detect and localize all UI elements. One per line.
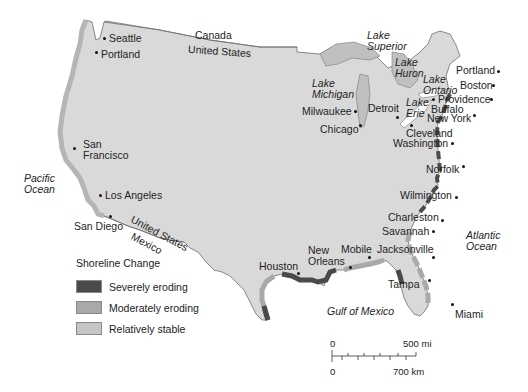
label-lake-huron: LakeHuron <box>395 57 424 79</box>
city-portland-me: Portland <box>456 65 495 76</box>
atlantic-line2: Ocean <box>466 240 497 252</box>
swatch-severely-eroding <box>76 280 102 293</box>
label-canada: Canada <box>195 30 232 41</box>
scale-bottom-left: 0 <box>330 366 335 377</box>
city-dot-tampa <box>428 279 431 282</box>
city-portland-or: Portland <box>101 49 140 60</box>
city-charleston: Charleston <box>388 212 439 223</box>
swatch-moderately-eroding <box>76 301 102 314</box>
city-dot-norfolk <box>462 165 465 168</box>
legend-title: Shoreline Change <box>76 257 199 269</box>
city-mobile: Mobile <box>341 244 372 255</box>
city-dot-milwaukee <box>354 110 357 113</box>
pacific-line2: Ocean <box>24 183 55 195</box>
city-dot-savannah <box>432 230 435 233</box>
legend-label: Severely eroding <box>109 281 188 293</box>
city-dot-los-angeles <box>99 194 102 197</box>
sf-line2: Francisco <box>83 149 129 161</box>
swatch-relatively-stable <box>76 322 102 335</box>
city-dot-charleston <box>441 219 444 222</box>
label-lake-erie: LakeErie <box>406 97 429 119</box>
city-dot-detroit <box>396 116 399 119</box>
city-dot-new-orleans <box>349 266 352 269</box>
city-dot-seattle <box>103 37 106 40</box>
legend-item-relatively-stable: Relatively stable <box>76 318 199 339</box>
city-dot-jacksonville <box>432 256 435 259</box>
city-detroit: Detroit <box>368 103 399 114</box>
label-pacific-ocean: PacificOcean <box>24 173 55 195</box>
city-los-angeles: Los Angeles <box>105 190 162 201</box>
city-dot-san-diego <box>109 215 112 218</box>
michigan-line2: Michigan <box>312 88 354 100</box>
city-savannah: Savannah <box>382 226 429 237</box>
city-dot-washington <box>451 142 454 145</box>
legend-label: Relatively stable <box>109 323 185 335</box>
city-jacksonville: Jacksonville <box>377 244 434 255</box>
city-milwaukee: Milwaukee <box>302 106 352 117</box>
city-san-francisco: SanFrancisco <box>83 139 129 161</box>
city-dot-portland-or <box>95 51 98 54</box>
label-lake-michigan: LakeMichigan <box>312 78 354 100</box>
city-dot-houston <box>297 272 300 275</box>
huron-line2: Huron <box>395 67 424 79</box>
scale-top-right: 500 mi <box>403 338 432 349</box>
legend-label: Moderately eroding <box>109 302 199 314</box>
legend-item-severely-eroding: Severely eroding <box>76 276 199 297</box>
city-dot-buffalo <box>432 98 435 101</box>
city-houston: Houston <box>259 261 298 272</box>
city-san-diego: San Diego <box>74 221 123 232</box>
city-miami: Miami <box>455 309 483 320</box>
label-atlantic-ocean: AtlanticOcean <box>466 230 500 252</box>
city-tampa: Tampa <box>388 279 420 290</box>
city-new-orleans: NewOrleans <box>308 245 345 267</box>
city-buffalo: Buffalo <box>431 104 464 115</box>
legend: Shoreline Change Severely eroding Modera… <box>76 257 199 339</box>
city-seattle: Seattle <box>109 33 142 44</box>
label-lake-superior: LakeSuperior <box>367 30 407 52</box>
city-boston: Boston <box>460 80 493 91</box>
city-washington: Washington <box>393 138 448 149</box>
label-gulf-of-mexico: Gulf of Mexico <box>327 306 394 317</box>
city-dot-portland-me <box>497 70 500 73</box>
scale-bottom-right: 700 km <box>393 366 424 377</box>
city-wilmington: Wilmington <box>400 190 452 201</box>
city-chicago: Chicago <box>320 124 359 135</box>
superior-line2: Superior <box>367 40 407 52</box>
scale-bar: 0 500 mi 0 700 km <box>330 338 420 380</box>
city-dot-san-francisco <box>73 147 76 150</box>
city-dot-chicago <box>359 124 362 127</box>
scale-top-left: 0 <box>330 338 335 349</box>
city-dot-new-york <box>473 114 476 117</box>
erie-line2: Erie <box>406 107 425 119</box>
city-norfolk: Norfolk <box>426 164 459 175</box>
city-dot-mobile <box>368 256 371 259</box>
legend-item-moderately-eroding: Moderately eroding <box>76 297 199 318</box>
no-line2: Orleans <box>308 255 345 267</box>
city-dot-miami <box>451 303 454 306</box>
city-cleveland: Cleveland <box>406 128 453 139</box>
city-dot-wilmington <box>455 196 458 199</box>
city-providence: Providence <box>438 94 491 105</box>
